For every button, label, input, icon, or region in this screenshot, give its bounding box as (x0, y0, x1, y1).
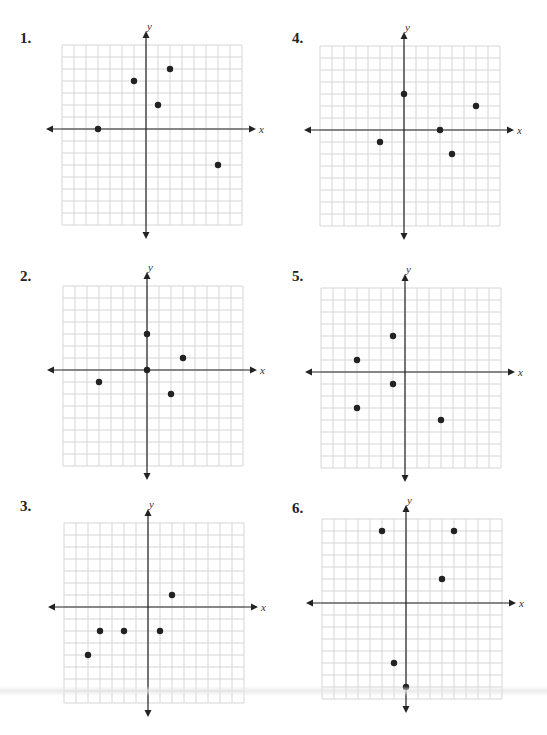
data-point (390, 381, 396, 387)
graph-number: 6. (292, 500, 303, 517)
data-point (169, 592, 175, 598)
graph-number: 3. (20, 498, 31, 515)
arrow-right-icon (509, 600, 516, 607)
arrow-right-icon (508, 369, 515, 376)
arrow-right-icon (251, 604, 258, 611)
data-point (96, 379, 102, 385)
coordinate-plane: xy (292, 500, 547, 735)
y-axis-label: y (148, 498, 154, 510)
graph-number: 4. (292, 30, 303, 47)
arrow-left-icon (48, 604, 55, 611)
graph-number: 1. (20, 30, 31, 47)
data-point (97, 628, 103, 634)
data-point (390, 333, 396, 339)
graph-5: xy5. (292, 268, 547, 508)
coordinate-plane: xy (292, 268, 547, 508)
data-point (439, 576, 445, 582)
arrow-left-icon (46, 126, 53, 133)
data-point (215, 162, 221, 168)
data-point (144, 331, 150, 337)
arrow-up-icon (402, 274, 409, 281)
arrow-down-icon (401, 233, 408, 240)
y-axis-label: y (147, 261, 153, 273)
coordinate-plane: xy (20, 30, 280, 270)
data-point (144, 367, 150, 373)
data-point (379, 528, 385, 534)
x-axis-label: x (518, 597, 524, 609)
graph-1: xy1. (20, 30, 280, 270)
x-axis-label: x (260, 601, 266, 613)
y-axis-label: y (404, 21, 410, 33)
data-point (155, 102, 161, 108)
arrow-left-icon (304, 127, 311, 134)
arrow-up-icon (403, 505, 410, 512)
arrow-up-icon (144, 272, 151, 279)
scan-artifact (0, 686, 547, 696)
data-point (451, 528, 457, 534)
grid (322, 519, 502, 699)
data-point (354, 405, 360, 411)
arrow-right-icon (507, 127, 514, 134)
arrow-down-icon (403, 706, 410, 713)
graph-6: xy6. (292, 500, 547, 735)
graph-2: xy2. (20, 268, 280, 508)
arrow-down-icon (143, 232, 150, 239)
data-point (180, 355, 186, 361)
grid (63, 286, 243, 466)
y-axis-label: y (406, 494, 412, 506)
arrow-up-icon (143, 31, 150, 38)
arrow-down-icon (402, 475, 409, 482)
x-axis-label: x (517, 366, 523, 378)
coordinate-plane: xy (20, 498, 280, 735)
data-point (157, 628, 163, 634)
arrow-left-icon (305, 369, 312, 376)
data-point (401, 91, 407, 97)
data-point (121, 628, 127, 634)
data-point (391, 660, 397, 666)
arrow-right-icon (249, 126, 256, 133)
graph-4: xy4. (292, 30, 547, 270)
grid (64, 523, 244, 703)
data-point (449, 151, 455, 157)
graph-number: 2. (20, 268, 31, 285)
y-axis-label: y (146, 20, 152, 32)
arrow-up-icon (145, 509, 152, 516)
arrow-left-icon (47, 367, 54, 374)
grid (321, 288, 501, 468)
coordinate-plane: xy (20, 268, 280, 508)
data-point (437, 127, 443, 133)
grid (62, 45, 242, 225)
data-point (167, 66, 173, 72)
x-axis-label: x (258, 123, 264, 135)
data-point (354, 357, 360, 363)
arrow-down-icon (145, 710, 152, 717)
arrow-up-icon (401, 32, 408, 39)
y-axis-label: y (405, 263, 411, 275)
arrow-down-icon (144, 473, 151, 480)
data-point (85, 652, 91, 658)
data-point (438, 417, 444, 423)
data-point (131, 78, 137, 84)
graph-3: xy3. (20, 498, 280, 735)
data-point (95, 126, 101, 132)
data-point (168, 391, 174, 397)
arrow-right-icon (250, 367, 257, 374)
data-point (473, 103, 479, 109)
x-axis-label: x (516, 124, 522, 136)
arrow-left-icon (306, 600, 313, 607)
coordinate-plane: xy (292, 30, 547, 270)
data-point (377, 139, 383, 145)
graph-number: 5. (292, 268, 303, 285)
x-axis-label: x (259, 364, 265, 376)
grid (320, 46, 500, 226)
